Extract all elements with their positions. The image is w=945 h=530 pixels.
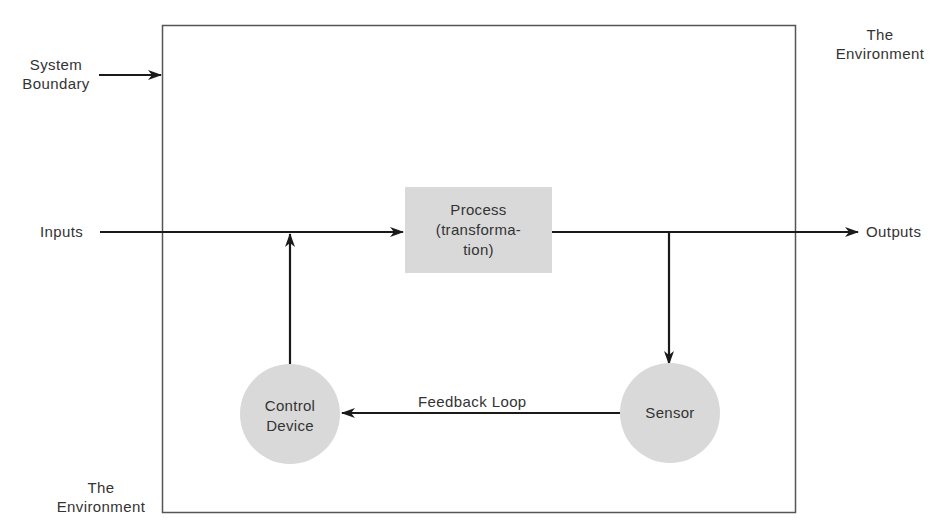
process-node: Process (transforma- tion) bbox=[405, 200, 552, 260]
control-device-line1: Control bbox=[240, 396, 340, 416]
control-device-node: Control Device bbox=[240, 396, 340, 436]
outputs-label: Outputs bbox=[866, 222, 921, 241]
feedback-loop-label: Feedback Loop bbox=[418, 392, 527, 411]
environment-bottom-line1: The bbox=[47, 478, 155, 497]
process-line2: (transforma- bbox=[405, 220, 552, 240]
environment-bottom-line2: Environment bbox=[47, 497, 155, 516]
control-device-line2: Device bbox=[240, 416, 340, 436]
process-line3: tion) bbox=[405, 240, 552, 260]
diagram-canvas bbox=[0, 0, 945, 530]
system-boundary-label-line1: System bbox=[14, 55, 98, 74]
system-boundary-label: System Boundary bbox=[14, 55, 98, 93]
environment-top-label: The Environment bbox=[825, 25, 935, 63]
inputs-label: Inputs bbox=[40, 222, 83, 241]
sensor-line1: Sensor bbox=[620, 403, 720, 423]
system-boundary-label-line2: Boundary bbox=[14, 74, 98, 93]
sensor-node: Sensor bbox=[620, 403, 720, 423]
environment-top-line2: Environment bbox=[825, 44, 935, 63]
process-line1: Process bbox=[405, 200, 552, 220]
environment-top-line1: The bbox=[825, 25, 935, 44]
environment-bottom-label: The Environment bbox=[47, 478, 155, 516]
